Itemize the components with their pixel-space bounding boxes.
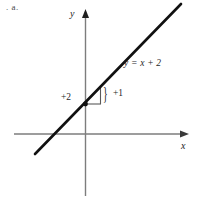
y-axis-label: y <box>70 9 74 19</box>
rise-label: +2 <box>61 93 71 103</box>
graph-figure: . a. y x y = x + 2 +2 } +1 <box>0 0 197 204</box>
line-y-equals-x-plus-2 <box>35 4 181 154</box>
brace-icon: } <box>103 85 108 103</box>
run-label: +1 <box>113 89 123 99</box>
y-axis-arrowhead <box>82 9 89 18</box>
coordinate-plane <box>0 0 197 204</box>
y-intercept-point <box>83 102 88 107</box>
x-axis-arrowhead <box>180 131 189 138</box>
equation-label: y = x + 2 <box>124 59 161 69</box>
x-axis-label: x <box>181 141 185 151</box>
item-label: . a. <box>6 3 19 12</box>
